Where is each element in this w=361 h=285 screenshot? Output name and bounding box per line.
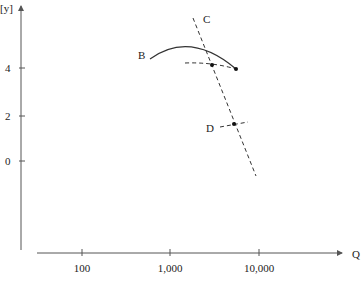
intersection-point xyxy=(210,63,214,67)
point-d xyxy=(232,122,236,126)
y-tick-label: 2 xyxy=(5,110,11,122)
line-c-label: C xyxy=(203,13,210,25)
y-axis: [y] 4 2 0 xyxy=(0,2,25,250)
x-tick-label: 100 xyxy=(74,262,91,274)
y-axis-label: [y] xyxy=(0,2,13,14)
x-tick-label: 10,000 xyxy=(244,262,275,274)
curve-b-label: B xyxy=(138,49,145,61)
line-c xyxy=(193,18,256,176)
line-d-label: D xyxy=(206,122,214,134)
diagram-canvas: [y] 4 2 0 Q 100 1,000 10,000 B C D xyxy=(0,0,361,285)
x-axis: Q 100 1,000 10,000 xyxy=(37,248,360,274)
end-point xyxy=(234,67,238,71)
y-tick-label: 4 xyxy=(5,62,11,74)
y-tick-label: 0 xyxy=(5,155,11,167)
x-axis-label: Q xyxy=(352,248,360,260)
x-tick-label: 1,000 xyxy=(158,262,183,274)
